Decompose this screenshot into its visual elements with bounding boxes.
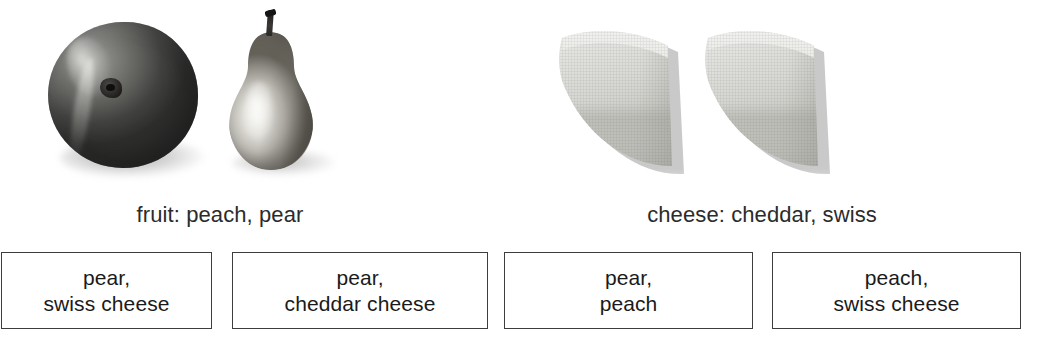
option-box-3-label: pear, peach [600,265,658,317]
option-box-1[interactable]: pear, swiss cheese [1,252,212,329]
figure-stage: fruit: peach, pear cheese: cheddar, swis… [0,0,1048,350]
photo-row [0,0,1048,195]
option-box-2[interactable]: pear, cheddar cheese [232,252,488,329]
pear-stem-tip [264,9,276,18]
cheese-texture [702,16,832,171]
cheddar-cheese-photo [556,16,706,181]
pear-highlight [244,82,274,140]
fruit-caption: fruit: peach, pear [0,200,440,230]
option-box-2-label: pear, cheddar cheese [285,265,436,317]
option-box-4-label: peach, swiss cheese [833,265,959,317]
option-boxes: pear, swiss cheese pear, cheddar cheese … [0,252,1048,332]
peach-photo [44,18,206,178]
cheese-caption: cheese: cheddar, swiss [542,200,982,230]
option-box-3[interactable]: pear, peach [504,252,753,329]
peach-stem-dot [106,84,115,91]
option-box-4[interactable]: peach, swiss cheese [772,252,1021,329]
option-box-1-label: pear, swiss cheese [43,265,169,317]
pear-photo [220,10,330,182]
cheese-texture [556,16,686,171]
swiss-cheese-photo [702,16,852,181]
